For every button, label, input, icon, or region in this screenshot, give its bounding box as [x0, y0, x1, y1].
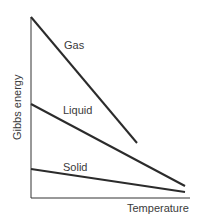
solid-label: Solid — [63, 161, 87, 173]
gibbs-energy-diagram: Gas Liquid Solid Temperature Gibbs energ… — [0, 0, 199, 216]
y-axis-label: Gibbs energy — [11, 74, 23, 140]
gas-label: Gas — [64, 39, 85, 51]
x-axis-label: Temperature — [127, 202, 189, 214]
gas-line — [31, 17, 137, 143]
solid-line — [31, 169, 185, 192]
liquid-line — [31, 104, 185, 186]
liquid-label: Liquid — [63, 104, 92, 116]
